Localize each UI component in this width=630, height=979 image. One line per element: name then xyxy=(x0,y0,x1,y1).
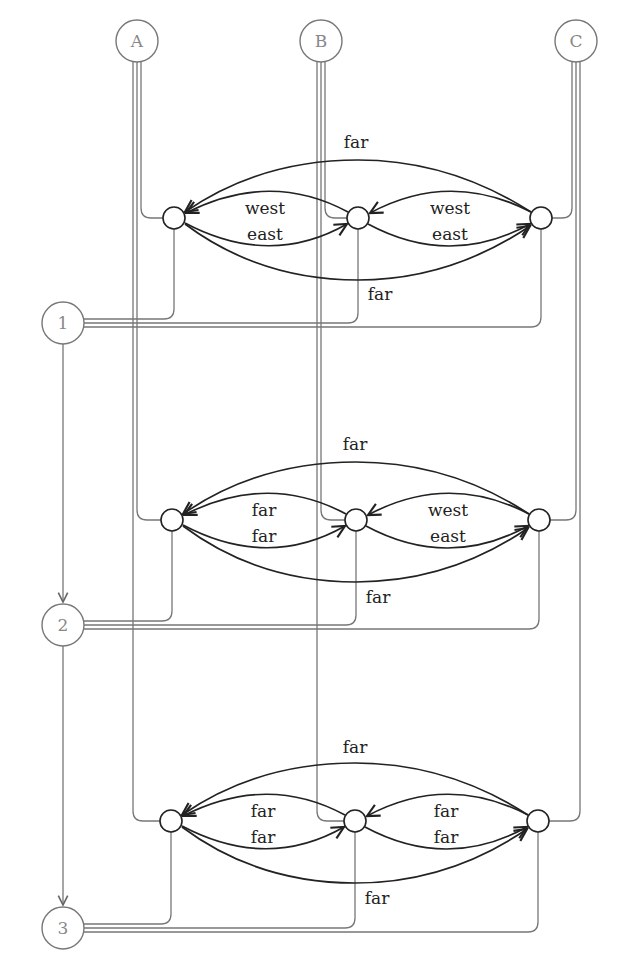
wire-c-c1 xyxy=(552,62,572,218)
node-a-label: A xyxy=(130,31,144,51)
far-label-bottom: far xyxy=(365,888,390,908)
top-nodes: A B C xyxy=(116,20,597,62)
state-node[interactable] xyxy=(160,810,182,832)
state-node[interactable] xyxy=(161,509,183,531)
state-node[interactable] xyxy=(528,509,550,531)
far-label-top: far xyxy=(343,737,368,757)
edge-far-top xyxy=(185,160,531,212)
state-node[interactable] xyxy=(347,207,369,229)
edge-far-top xyxy=(183,462,529,514)
right-upper-label: west xyxy=(430,198,470,218)
node-c-label: C xyxy=(569,31,582,51)
state-node[interactable] xyxy=(345,509,367,531)
far-label-top: far xyxy=(344,132,369,152)
wire-3-left xyxy=(84,832,171,924)
state-diagram: far far west east west east far far far … xyxy=(0,0,630,979)
right-upper-label: far xyxy=(434,801,459,821)
state-node[interactable] xyxy=(344,810,366,832)
left-lower-label: east xyxy=(247,224,283,244)
left-upper-label: far xyxy=(251,801,276,821)
node-3-label: 3 xyxy=(58,918,69,938)
far-label-bottom: far xyxy=(366,587,391,607)
right-upper-label: west xyxy=(428,500,468,520)
wire-2-mid xyxy=(84,531,356,625)
cluster-3: far far far far far far xyxy=(160,737,549,908)
state-node[interactable] xyxy=(527,810,549,832)
left-lower-label: far xyxy=(252,526,277,546)
left-upper-label: far xyxy=(252,500,277,520)
edge-far-top xyxy=(182,763,528,815)
left-upper-label: west xyxy=(245,198,285,218)
node-1-label: 1 xyxy=(58,313,69,333)
right-lower-label: east xyxy=(432,224,468,244)
wire-2-left xyxy=(84,531,172,621)
far-label-top: far xyxy=(343,434,368,454)
state-node[interactable] xyxy=(163,207,185,229)
left-lower-label: far xyxy=(251,827,276,847)
right-lower-label: east xyxy=(430,526,466,546)
node-2-label: 2 xyxy=(58,615,69,635)
right-lower-label: far xyxy=(434,827,459,847)
wire-1-left xyxy=(84,229,174,319)
far-label-bottom: far xyxy=(368,284,393,304)
wire-a-c1 xyxy=(141,62,163,218)
node-b-label: B xyxy=(315,31,328,51)
state-node[interactable] xyxy=(530,207,552,229)
